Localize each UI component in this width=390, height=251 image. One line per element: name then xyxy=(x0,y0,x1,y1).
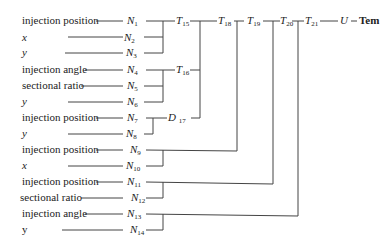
input-label: injection position xyxy=(22,143,99,155)
input-label: y xyxy=(22,223,28,235)
node-t18: T18 xyxy=(218,14,231,30)
node-t19: T19 xyxy=(247,14,260,30)
node-t20: T20 xyxy=(280,14,293,30)
node-n12: N12 xyxy=(131,191,145,207)
node-n8: N8 xyxy=(126,127,137,143)
input-label: y xyxy=(22,46,27,58)
node-n1: N1 xyxy=(127,14,138,30)
node-u: U xyxy=(340,14,348,26)
node-n3: N3 xyxy=(126,46,137,62)
input-label: x xyxy=(22,159,27,171)
node-t16: T16 xyxy=(176,63,189,79)
node-n2: N2 xyxy=(124,31,135,47)
input-label: injection position xyxy=(22,175,99,187)
node-t15: T15 xyxy=(176,14,189,30)
output-label-tem: Tem xyxy=(359,14,379,26)
node-n5: N5 xyxy=(127,79,138,95)
input-label: injection angle xyxy=(22,207,87,219)
input-label: sectional ratio xyxy=(22,79,84,91)
input-label: sectional ratio xyxy=(20,191,82,203)
node-n11: N11 xyxy=(127,175,141,191)
input-label: injection angle xyxy=(22,63,87,75)
node-n14: N14 xyxy=(130,223,144,239)
node-d17: D 17 xyxy=(168,111,186,127)
node-n9: N9 xyxy=(130,143,141,159)
node-n7: N7 xyxy=(127,111,138,127)
node-t21: T21 xyxy=(305,14,318,30)
node-n10: N10 xyxy=(126,159,140,175)
input-label: injection position xyxy=(22,14,99,26)
input-label: y xyxy=(22,127,27,139)
node-n6: N6 xyxy=(127,95,138,111)
input-label: y xyxy=(22,95,27,107)
node-n4: N4 xyxy=(127,63,138,79)
input-label: injection position xyxy=(22,111,99,123)
input-label: x xyxy=(22,31,27,43)
node-n13: N13 xyxy=(127,207,141,223)
